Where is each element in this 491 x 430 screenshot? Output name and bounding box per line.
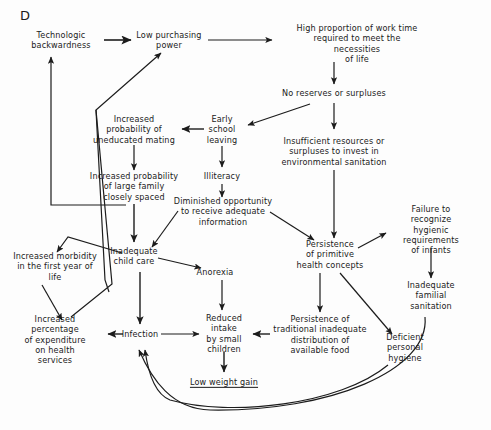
panel-label: D (20, 8, 30, 23)
node-low_weight_gain: Low weight gain (190, 377, 258, 387)
edge-diminished-to-primitive (270, 212, 314, 240)
node-tech_backwardness: Technologic backwardness (31, 30, 90, 51)
node-early_school_leaving: Early school leaving (207, 114, 238, 145)
node-increased_uneducated_mating: Increased probability of uneducated mati… (93, 114, 175, 145)
diagram-canvas: D (0, 0, 491, 430)
node-increased_percentage: Increased percentage of expenditure on h… (24, 314, 85, 365)
node-no_reserves: No reserves or surpluses (282, 88, 386, 98)
node-illiteracy: Illiteracy (204, 171, 240, 181)
node-large_family: Increased probability of large family cl… (90, 171, 178, 202)
node-inadequate_familial_sanitation: Inadequate familial sanitation (407, 280, 454, 311)
node-diminished_opportunity: Diminished opportunity to receive adequa… (174, 196, 272, 227)
edge-childcare-to-anorexia (158, 258, 201, 268)
node-increased_morbidity: Increased morbidity in the first year of… (13, 251, 97, 282)
node-infection: Infection (122, 329, 159, 339)
node-reduced_intake: Reduced intake by small children (206, 313, 242, 354)
node-persistence_traditional: Persistence of traditional inadequate di… (273, 314, 366, 355)
node-insufficient_resources: Insufficient resources or surpluses to i… (281, 136, 386, 167)
node-persistence_primitive: Persistence of primitive health concepts (297, 239, 364, 270)
node-inadequate_child_care: Inadequate child care (110, 246, 157, 267)
node-low_purchasing: Low purchasing power (136, 30, 201, 51)
edge-deficienthygiene-to-infection (145, 350, 388, 407)
node-failure_recognize_hygiene: Failure to recognize hygienic requiremen… (401, 204, 461, 255)
node-anorexia: Anorexia (197, 267, 234, 277)
node-deficient_hygiene: Deficient personal hygiene (386, 332, 424, 363)
edge-noreserves-to-earlyschool (248, 104, 310, 125)
node-high_work_time: High proportion of work time required to… (290, 23, 424, 64)
